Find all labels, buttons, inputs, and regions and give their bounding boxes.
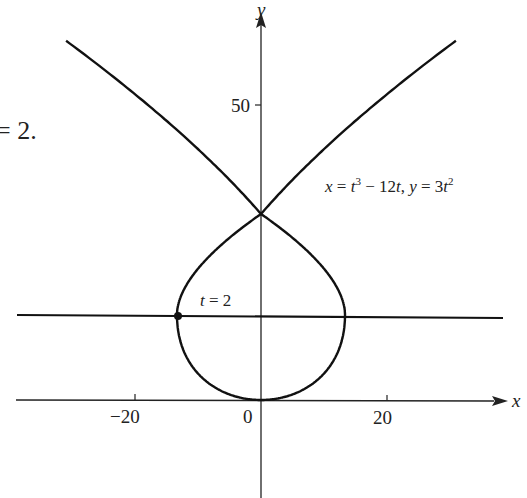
tangent-line-y12 (17, 315, 503, 318)
equation-label: x = t3 − 12t, y = 3t2 (325, 176, 454, 195)
eq-sup2: 2 (448, 175, 454, 187)
eq-eq1: = (333, 177, 351, 196)
point-label-value: = 2 (205, 291, 232, 310)
y-tick-label-50: 50 (231, 96, 250, 115)
x-tick-label-20: 20 (373, 408, 392, 427)
y-axis-label: y (257, 0, 265, 19)
eq-eq2: = 3 (417, 177, 444, 196)
x-tick-label-0: 0 (243, 407, 253, 426)
eq-y: y (409, 177, 417, 196)
eq-x: x (325, 177, 333, 196)
x-tick-label-neg20: −20 (110, 407, 140, 426)
x-axis-label: x (512, 391, 520, 410)
cropped-text-fragment: = 2. (0, 118, 37, 144)
x-axis-arrow-icon (492, 396, 508, 406)
parametric-plot (0, 0, 527, 498)
eq-minus: − 12 (361, 177, 396, 196)
point-label-t2: t = 2 (200, 292, 231, 309)
point-t2-marker (174, 312, 182, 320)
eq-comma: , (401, 177, 410, 196)
